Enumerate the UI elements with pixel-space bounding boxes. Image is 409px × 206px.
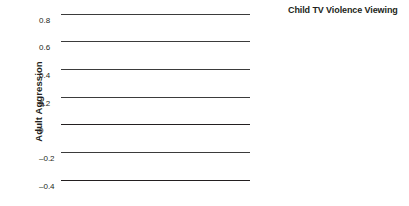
legend-title: Child TV Violence Viewing <box>288 5 406 15</box>
chart-legend: Child TV Violence Viewing <box>288 5 406 22</box>
y-tick-label: 0.6 <box>39 43 59 52</box>
y-tick-label: 0.2 <box>39 99 59 108</box>
bar-series-group <box>61 14 250 180</box>
y-tick-label: 0.4 <box>39 71 59 80</box>
plot-area: 0.80.60.40.20–0.2–0.4 <box>61 14 250 180</box>
y-tick-label: –0.2 <box>39 154 59 163</box>
y-tick-label: 0 <box>39 126 59 135</box>
bar-chart-figure: Adult Aggression 0.80.60.40.20–0.2–0.4 C… <box>0 0 409 206</box>
y-tick-label: –0.4 <box>39 182 59 191</box>
y-tick-label: 0.8 <box>39 16 59 25</box>
